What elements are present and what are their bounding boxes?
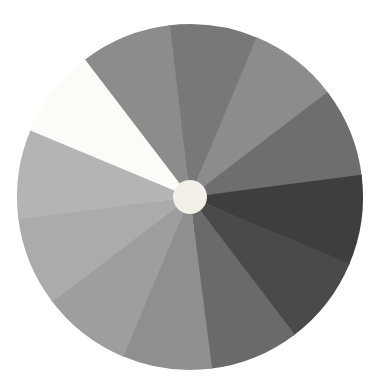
image-canvas: [0, 0, 379, 384]
center-hub: [173, 180, 207, 214]
sector-wheel: [0, 0, 379, 384]
